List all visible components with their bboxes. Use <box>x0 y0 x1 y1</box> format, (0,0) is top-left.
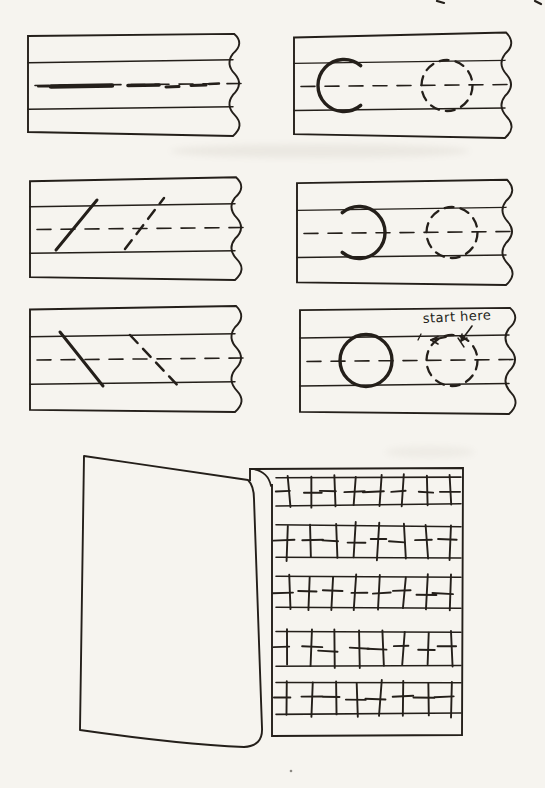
vertical-stroke <box>451 631 453 667</box>
panel-downward-slant <box>30 306 243 412</box>
row-bottom-line <box>276 607 461 608</box>
upper-writing-line <box>300 335 509 338</box>
vertical-stroke <box>450 574 451 610</box>
vertical-stroke <box>354 522 356 557</box>
dashed-slant-down <box>130 335 180 388</box>
vertical-stroke <box>450 525 451 560</box>
traced-horizontal-dash <box>128 85 159 86</box>
vertical-stroke <box>426 525 428 558</box>
row-top-line <box>276 631 461 632</box>
lower-writing-line <box>30 382 235 385</box>
upper-writing-line <box>28 60 233 63</box>
traced-horizontal-dash <box>191 85 206 86</box>
cross-dash <box>322 540 338 541</box>
cross-dash <box>363 491 384 492</box>
cross-dash <box>323 590 343 591</box>
vertical-stroke <box>311 683 312 717</box>
cropped-text-mark <box>535 1 541 4</box>
practice-row <box>273 574 461 610</box>
cross-dash <box>273 593 293 594</box>
cross-dash <box>274 647 289 648</box>
vertical-stroke <box>451 682 452 717</box>
row-bottom-line <box>276 666 461 667</box>
panel-c-open-left <box>297 180 514 285</box>
lower-writing-line <box>297 255 506 258</box>
cross-dash <box>435 696 454 697</box>
lower-writing-line <box>28 107 233 110</box>
vertical-stroke <box>402 632 404 665</box>
vertical-stroke <box>403 577 406 608</box>
panel-circle: start here <box>300 307 517 414</box>
lower-writing-line <box>294 108 505 111</box>
page-drawing: start here <box>0 0 545 788</box>
vertical-stroke <box>382 630 383 665</box>
row-bottom-line <box>276 713 461 714</box>
scanned-page: start here <box>0 0 545 788</box>
row-top-line <box>276 576 461 577</box>
row-top-line <box>276 525 461 527</box>
cross-dash <box>368 649 387 650</box>
ghost-smudge <box>385 446 475 458</box>
cross-dash <box>393 590 411 591</box>
row-top-line <box>276 477 461 478</box>
row-bottom-line <box>276 557 461 558</box>
dashed-midline <box>301 85 513 87</box>
vertical-stroke <box>308 578 309 611</box>
vertical-stroke <box>426 574 428 609</box>
row-bottom-line <box>276 504 461 506</box>
cross-dash <box>393 696 414 697</box>
cross-dash <box>391 491 405 492</box>
cross-dash <box>350 648 369 649</box>
cross-dash <box>302 540 323 541</box>
lower-writing-line <box>300 384 509 387</box>
panel-c-open-right <box>294 32 513 138</box>
vertical-stroke <box>287 526 288 561</box>
small-tick <box>418 334 421 340</box>
solid-slant-up <box>56 200 97 250</box>
cross-dash <box>344 491 364 492</box>
cross-dash <box>419 492 433 493</box>
panel-horizontal-strokes <box>28 34 241 136</box>
lower-writing-line <box>30 251 235 254</box>
cross-dash <box>274 540 295 541</box>
dashed-midline <box>37 358 243 360</box>
start-here-label: start here <box>422 307 491 326</box>
page-curl-top <box>252 469 271 486</box>
practice-row <box>276 474 461 507</box>
cross-dash <box>438 539 457 540</box>
upper-writing-line <box>30 204 235 207</box>
vertical-stroke <box>428 633 429 665</box>
folded-cover <box>80 456 262 747</box>
vertical-stroke <box>331 577 333 610</box>
cross-dash <box>276 491 290 492</box>
vertical-stroke <box>311 629 312 666</box>
upper-writing-line <box>297 207 506 210</box>
vertical-stroke <box>404 524 406 559</box>
practice-row <box>274 522 461 561</box>
cross-dash <box>389 541 405 542</box>
stray-dot <box>290 770 293 773</box>
cross-dash <box>373 593 391 594</box>
dashed-midline <box>304 232 514 234</box>
practice-row <box>274 680 461 717</box>
traced-horizontal-dash <box>166 87 179 88</box>
vertical-stroke <box>379 680 382 716</box>
cropped-text-mark <box>437 1 444 3</box>
ghost-text-smudge <box>170 144 470 158</box>
vertical-stroke <box>427 476 428 506</box>
cross-dash <box>318 651 337 652</box>
vertical-stroke <box>377 523 379 561</box>
cross-dash <box>298 591 316 592</box>
folded-cover-outline <box>80 456 262 747</box>
cross-dash <box>432 593 453 594</box>
practice-row <box>274 629 461 668</box>
cross-dash <box>302 646 322 647</box>
traced-horizontal-dash <box>209 84 219 85</box>
vertical-stroke <box>359 630 360 668</box>
solid-horizontal-stroke <box>51 86 112 87</box>
cross-dash <box>365 699 385 700</box>
vertical-stroke <box>450 475 452 505</box>
panel-upward-slant <box>30 177 243 280</box>
upper-writing-line <box>294 60 505 63</box>
